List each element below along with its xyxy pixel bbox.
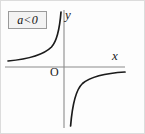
condition-label-box: a<0 (8, 11, 47, 29)
hyperbola-branch-quadrant-4 (71, 72, 125, 126)
condition-label-text: a<0 (17, 14, 38, 26)
origin-label: O (50, 66, 59, 78)
hyperbola-figure: a<0 y x O (0, 0, 145, 134)
x-axis-label: x (112, 49, 118, 62)
y-axis-label: y (65, 8, 71, 21)
